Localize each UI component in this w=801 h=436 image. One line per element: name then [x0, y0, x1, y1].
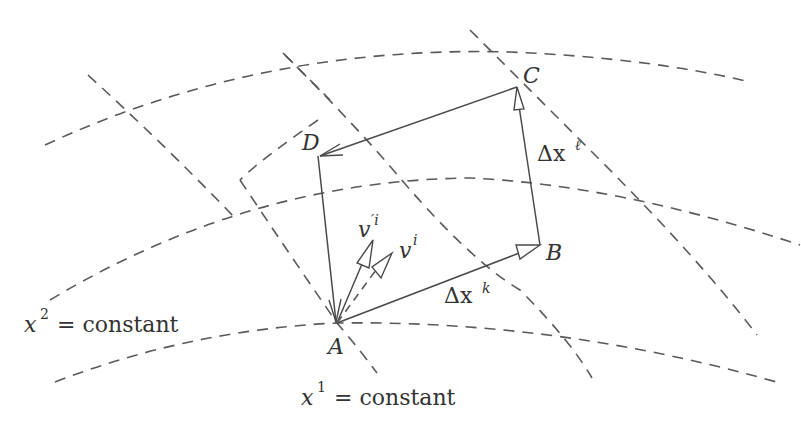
x1-curve-middle	[470, 30, 757, 335]
label-point-d: D	[301, 130, 320, 155]
x1-base: x	[301, 385, 314, 410]
x1-curve-left	[88, 75, 235, 218]
v-sup: i	[413, 232, 417, 248]
label-point-a: A	[326, 334, 344, 359]
x1-sup: 1	[317, 379, 326, 395]
edge-da	[318, 156, 336, 322]
delta-x-k-base: Δx	[444, 283, 473, 308]
label-v-prime-i: v ′i	[358, 212, 379, 242]
label-v-i: v i	[399, 232, 417, 263]
arrowhead-v-prime-icon	[357, 240, 373, 268]
delta-x-k-sup: k	[482, 280, 490, 296]
v-prime-sup: ′i	[371, 212, 379, 228]
x1-rest: = constant	[327, 385, 456, 410]
arrowhead-ab-icon	[516, 245, 540, 259]
x2-curve-middle	[50, 178, 800, 300]
x2-sup: 2	[40, 306, 49, 322]
edge-cd	[320, 87, 517, 156]
arrowhead-cd-icon	[320, 144, 343, 156]
x1-curve-through-a	[240, 53, 377, 373]
x2-base: x	[24, 312, 37, 337]
parallel-transport-diagram: A B C D Δx k Δx ℓ v ′i v i x 2 = constan…	[0, 0, 801, 436]
label-point-b: B	[545, 240, 562, 265]
delta-x-l-base: Δx	[537, 141, 566, 166]
label-delta-x-k: Δx k	[444, 280, 490, 308]
edge-bc	[519, 106, 540, 245]
v-prime-base: v	[358, 217, 371, 242]
x1-curve-bd	[285, 55, 592, 378]
v-base: v	[399, 238, 412, 263]
arrowhead-bc-icon	[514, 87, 524, 110]
delta-x-l-sup: ℓ	[575, 137, 581, 153]
vectors-at-a	[337, 240, 392, 323]
x2-curve-top	[45, 52, 750, 145]
label-x2-constant: x 2 = constant	[24, 306, 179, 337]
label-x1-constant: x 1 = constant	[301, 379, 456, 410]
label-delta-x-l: Δx ℓ	[537, 137, 581, 166]
arrowhead-v-icon	[372, 253, 392, 278]
label-point-c: C	[523, 63, 540, 88]
x2-rest: = constant	[50, 312, 179, 337]
